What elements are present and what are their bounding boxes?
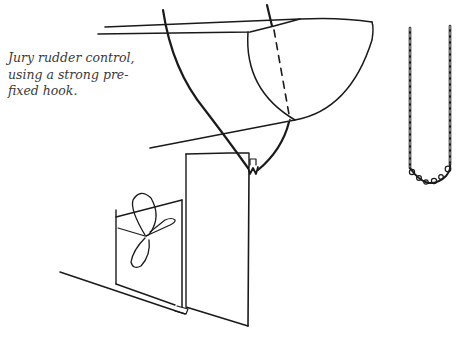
steering-lines — [163, 5, 289, 170]
jury-rudder-illustration — [0, 0, 466, 347]
hull-stern — [98, 18, 373, 148]
chain-detail — [409, 26, 450, 184]
keel-line — [60, 272, 185, 314]
jury-rudder-board — [116, 153, 249, 326]
